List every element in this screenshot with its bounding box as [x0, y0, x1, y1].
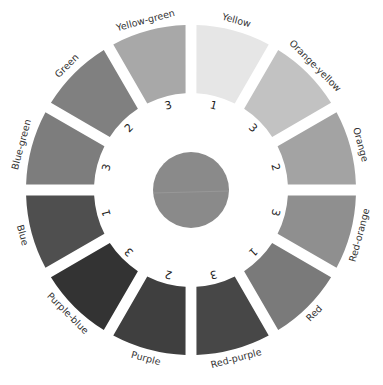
segment-label: Purple: [130, 349, 162, 367]
segment-number: 1: [246, 245, 260, 259]
center-circle: [153, 152, 229, 228]
segment-number: 3: [246, 121, 260, 135]
segment-number: 3: [268, 208, 282, 218]
segment-number: 3: [209, 267, 219, 281]
segment-number: 2: [122, 121, 136, 135]
segment-label: Yellow: [220, 11, 252, 30]
segment-number: 2: [268, 162, 282, 172]
segment-number: 1: [209, 98, 219, 112]
segment-number: 3: [122, 245, 136, 259]
segment-label: Orange: [351, 126, 371, 163]
segment-number: 3: [99, 162, 113, 172]
segment-number: 1: [99, 208, 113, 218]
color-wheel: Yellow1Orange-yellow3Orange2Red-orange3R…: [0, 0, 383, 385]
segment-number: 2: [163, 267, 173, 281]
segment-label: Blue: [15, 223, 31, 246]
segment-number: 3: [163, 98, 173, 112]
